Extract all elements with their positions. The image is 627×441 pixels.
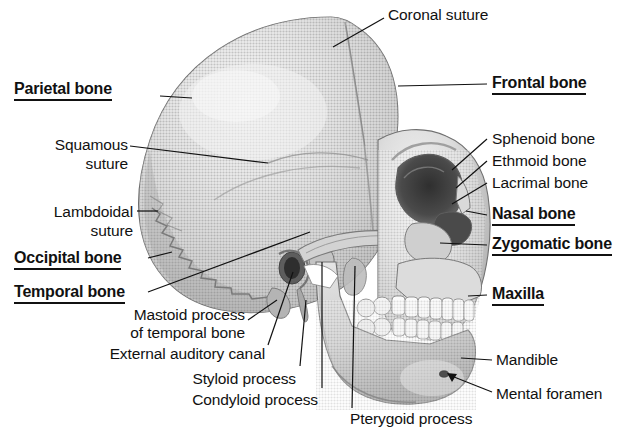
label-maxilla: Maxilla [492,285,544,306]
cranial-vault [139,10,410,320]
label-mastoid-process-line2: of temporal bone [60,324,245,342]
label-squamous-suture-line1: Squamous [0,136,128,154]
label-squamous-suture-line2: suture [0,155,128,173]
label-zygomatic-bone: Zygomatic bone [492,235,612,256]
label-frontal-bone: Frontal bone [492,74,586,95]
pterygoid-process-shape [343,258,366,295]
label-pterygoid-process: Pterygoid process [350,410,472,428]
label-external-auditory-canal: External auditory canal [40,345,265,363]
label-lambdoidal-suture-line2: suture [0,222,133,240]
label-mandible: Mandible [496,351,558,369]
label-mastoid-process-line1: Mastoid process [60,306,245,324]
label-sphenoid-bone: Sphenoid bone [492,130,595,148]
label-occipital-bone: Occipital bone [14,249,121,270]
label-mental-foramen: Mental foramen [496,385,602,403]
label-lacrimal-bone: Lacrimal bone [492,174,588,192]
label-temporal-bone: Temporal bone [14,283,125,304]
label-condyloid-process: Condyloid process [120,391,318,409]
label-coronal-suture: Coronal suture [388,6,488,24]
label-nasal-bone: Nasal bone [492,205,575,226]
skull-anatomy-figure: Coronal suture Frontal bone Parietal bon… [0,0,627,441]
mental-foramen-hole [440,371,449,377]
label-ethmoid-bone: Ethmoid bone [492,152,586,170]
label-lambdoidal-suture-line1: Lambdoidal [0,203,133,221]
label-styloid-process: Styloid process [120,370,296,388]
label-parietal-bone: Parietal bone [14,80,112,101]
